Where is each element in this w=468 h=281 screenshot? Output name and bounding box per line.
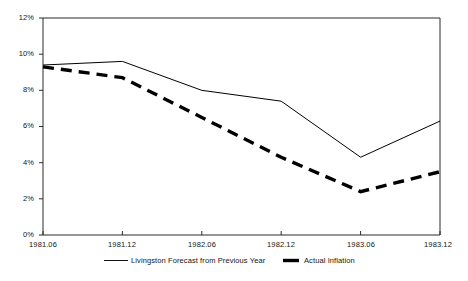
x-tick-label-1981-06: 1981.06 [13, 240, 73, 249]
chart-canvas [0, 0, 468, 281]
series-actual-inflation-line [43, 67, 440, 192]
x-tick-label-1981-12: 1981.12 [92, 240, 152, 249]
y-tick-label-12: 12% [6, 13, 34, 22]
y-axis-ticks [39, 18, 43, 235]
y-tick-label-10: 10% [6, 49, 34, 58]
legend-label-actual-inflation: Actual Inflation [304, 256, 355, 265]
inflation-forecast-chart: 12% 10% 8% 6% 4% 2% 0% 1981.06 1981.12 1… [0, 0, 468, 281]
x-tick-label-1983-06: 1983.06 [331, 240, 391, 249]
y-tick-label-4: 4% [6, 158, 34, 167]
y-tick-label-8: 8% [6, 85, 34, 94]
x-tick-label-1982-12: 1982.12 [251, 240, 311, 249]
y-tick-label-0: 0% [6, 230, 34, 239]
plot-frame [43, 18, 440, 235]
x-axis-ticks [43, 231, 440, 235]
y-tick-label-2: 2% [6, 194, 34, 203]
x-tick-label-1982-06: 1982.06 [172, 240, 232, 249]
legend-label-livingston-forecast: Livingston Forecast from Previous Year [131, 256, 265, 265]
x-tick-label-1983-12: 1983.12 [408, 240, 468, 249]
y-tick-label-6: 6% [6, 121, 34, 130]
